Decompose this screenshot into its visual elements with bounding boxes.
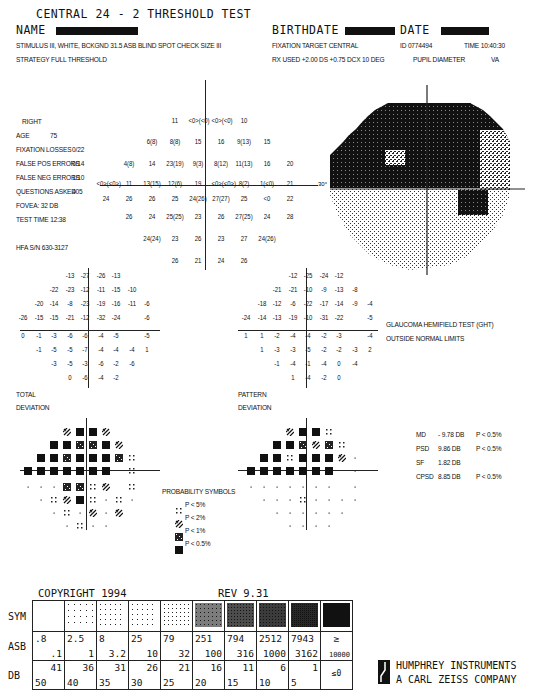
threshold-value: 12(6) xyxy=(165,180,184,187)
company-line-2: A CARL ZEISS COMPANY xyxy=(396,674,516,685)
threshold-value: 15 xyxy=(257,138,276,145)
p-1-symbol-icon xyxy=(115,447,123,466)
prob-legend-item: P < 0.5% xyxy=(175,539,216,558)
db-cell: 4150 xyxy=(33,661,65,690)
db-cell: 1620 xyxy=(193,661,225,690)
fixation-target: FIXATION TARGET CENTRAL xyxy=(272,41,358,50)
db-row-label: DB xyxy=(8,661,33,690)
threshold-value: 6(8) xyxy=(142,138,161,145)
pattern-deviation-value: -12 xyxy=(329,272,348,279)
db-bottom: 35 xyxy=(99,677,110,688)
prob-symbols-title: PROBABILITY SYMBOLS xyxy=(162,487,235,496)
sym-cell xyxy=(65,601,97,632)
threshold-value: 24(26) xyxy=(188,195,207,202)
asb-top: 79 xyxy=(163,633,174,644)
threshold-value: <0>(<0>) xyxy=(96,180,115,187)
asb-row-label: ASB xyxy=(8,632,33,661)
threshold-value: 9(3) xyxy=(188,160,207,167)
name-redacted xyxy=(56,27,138,35)
normal-dot-icon xyxy=(273,502,281,521)
threshold-value: 8(12) xyxy=(211,160,230,167)
ght-title: GLAUCOMA HEMIFIELD TEST (GHT) xyxy=(386,320,494,329)
index-label: MD xyxy=(416,430,426,439)
p-5-symbol-icon xyxy=(76,515,84,534)
normal-dot-icon xyxy=(325,515,333,534)
db-top: 31 xyxy=(115,662,126,673)
degree-label: 30° xyxy=(318,181,328,187)
db-top: 26 xyxy=(147,662,158,673)
sym-cell xyxy=(33,601,65,632)
pattern-deviation-value: -8 xyxy=(345,286,364,293)
total-deviation-value: -24 xyxy=(106,314,125,321)
asb-top: 2.5 xyxy=(67,633,84,644)
index-value: 1.82 DB xyxy=(438,458,461,467)
index-label: CPSD xyxy=(416,472,434,481)
age-label: AGE xyxy=(16,131,29,140)
threshold-value: 24 xyxy=(96,195,115,202)
threshold-value: 16 xyxy=(211,138,230,145)
asb-top: 2512 xyxy=(259,633,282,644)
threshold-value: 22 xyxy=(280,195,299,202)
prob-legend-label: P < 5% xyxy=(185,500,205,509)
p-2-symbol-icon xyxy=(115,502,123,521)
normal-dot-icon xyxy=(63,515,71,534)
sym-cell xyxy=(161,601,193,632)
index-label: PSD xyxy=(416,444,429,453)
false-neg-value: 1/10 xyxy=(72,173,84,182)
sym-cell xyxy=(193,601,225,632)
pd-probability-plot xyxy=(238,418,383,528)
asb-cell: 7932 xyxy=(161,632,193,661)
pd-label-1: PATTERN xyxy=(238,390,266,399)
asb-cell: 83.2 xyxy=(97,632,129,661)
threshold-value: 21 xyxy=(280,180,299,187)
report-title: CENTRAL 24 - 2 THRESHOLD TEST xyxy=(36,7,251,21)
threshold-value: 24 xyxy=(142,213,161,220)
index-p: P < 0.5% xyxy=(476,430,501,439)
greyscale-legend-table: SYM ASB.8.12.5183.2251079322511007943162… xyxy=(8,600,353,690)
db-cell: 3135 xyxy=(97,661,129,690)
threshold-value: 11 xyxy=(119,180,138,187)
td-label-2: DEVIATION xyxy=(16,403,49,412)
threshold-value: 23 xyxy=(165,235,184,242)
db-top: 6 xyxy=(280,662,286,673)
prob-legend-label: P < 0.5% xyxy=(185,539,210,548)
threshold-value: 27 xyxy=(234,235,253,242)
total-deviation-plot: -13-27-26-13-22-23-12-11-15-10-20-14-8-2… xyxy=(15,268,155,388)
index-value: 9.86 DB xyxy=(438,444,461,453)
threshold-value: 15 xyxy=(188,138,207,145)
false-pos-value: 0/14 xyxy=(72,159,84,168)
asb-bottom: 1000 xyxy=(263,648,286,659)
db-bottom: 15 xyxy=(227,677,238,688)
db-cell: 2630 xyxy=(129,661,161,690)
birthdate-redacted xyxy=(345,27,395,35)
total-deviation-value: -5 xyxy=(137,332,156,339)
threshold-value: <0>(<0) xyxy=(188,117,207,124)
db-bottom: 25 xyxy=(163,677,174,688)
normal-dot-icon xyxy=(37,489,45,508)
db-bottom: 5 xyxy=(291,677,297,688)
total-deviation-value: -6 xyxy=(122,360,141,367)
asb-bottom: 10000 xyxy=(329,651,350,659)
pattern-deviation-value: -4 xyxy=(360,300,379,307)
pattern-deviation-plot: -12-25-24-12-21-21-10-9-13-8-18-12-6-22-… xyxy=(238,268,378,388)
db-top: 16 xyxy=(211,662,222,673)
hfa-serial: HFA S/N 630-3127 xyxy=(16,243,68,252)
greyscale-island xyxy=(385,150,405,165)
threshold-value: 8(8) xyxy=(165,138,184,145)
normal-dot-icon xyxy=(50,502,58,521)
threshold-value: 1(<0) xyxy=(257,180,276,187)
greyscale-nasal-region xyxy=(480,130,520,190)
age-value: 75 xyxy=(50,131,57,140)
pattern-deviation-value: 2 xyxy=(360,346,379,353)
normal-dot-icon xyxy=(128,489,136,508)
db-cell: ≤0 xyxy=(321,661,353,690)
asb-bottom: 32 xyxy=(179,648,190,659)
threshold-value: 24(26) xyxy=(257,235,276,242)
db-top: 41 xyxy=(51,662,62,673)
threshold-value: <0 xyxy=(257,195,276,202)
db-cell: 2125 xyxy=(161,661,193,690)
normal-dot-icon xyxy=(299,515,307,534)
asb-cell: 251100 xyxy=(193,632,225,661)
pd-label-2: DEVIATION xyxy=(238,403,271,412)
threshold-value: 20 xyxy=(280,160,299,167)
